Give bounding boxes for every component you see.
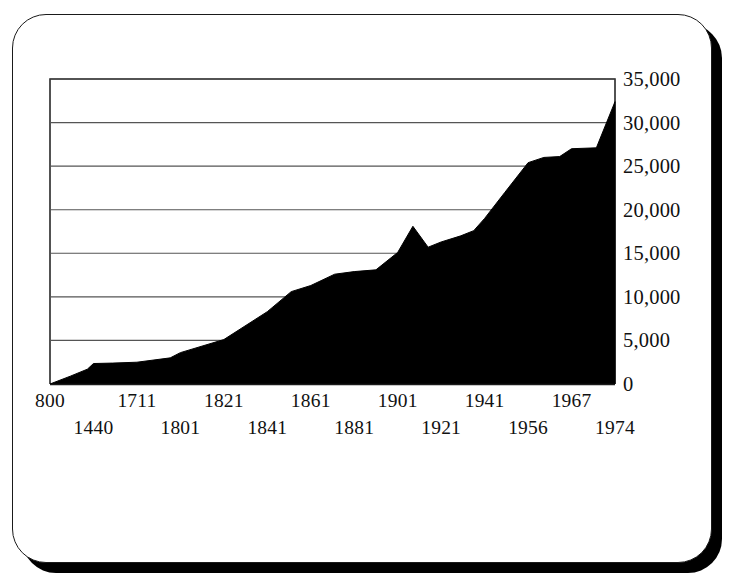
x-tick-label: 1440 [74,418,114,438]
area-series [50,102,615,384]
x-tick-label: 1967 [552,391,592,411]
x-tick-label: 1941 [465,391,505,411]
y-tick-label: 25,000 [623,156,681,177]
x-tick-label: 1821 [204,391,244,411]
y-tick-label: 10,000 [623,287,681,308]
x-tick-label: 1711 [117,391,156,411]
area-chart-figure: 35,00030,00025,00020,00015,00010,0005,00… [0,0,732,581]
y-tick-label: 20,000 [623,200,681,221]
x-tick-label: 1801 [160,418,200,438]
y-tick-label: 0 [623,374,633,395]
x-tick-label: 1921 [421,418,461,438]
y-tick-label: 15,000 [623,243,681,264]
x-tick-label: 800 [35,391,65,411]
y-tick-label: 30,000 [623,113,681,134]
y-tick-label: 35,000 [623,69,681,90]
x-tick-label: 1901 [378,391,418,411]
x-tick-label: 1881 [334,418,374,438]
x-tick-label: 1861 [291,391,331,411]
x-tick-label: 1974 [595,418,635,438]
x-tick-label: 1841 [247,418,287,438]
x-tick-label: 1956 [508,418,548,438]
y-tick-label: 5,000 [623,330,670,351]
